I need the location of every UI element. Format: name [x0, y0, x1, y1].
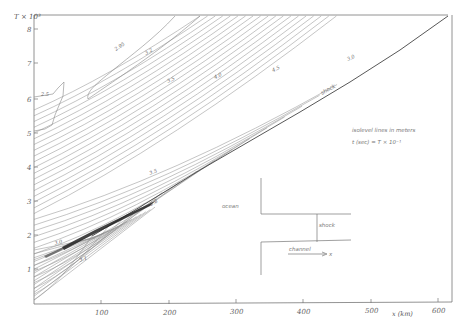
svg-text:3.0: 3.0: [54, 238, 64, 246]
x-tick-label: 400: [296, 308, 311, 316]
contour-line: [34, 16, 306, 191]
y-tick-label: 3: [27, 198, 32, 206]
x-tick-label: 200: [162, 309, 177, 317]
x-tick-label: 300: [230, 308, 244, 316]
y-tick-label: 5: [27, 130, 32, 138]
y-tick-label: 6: [27, 96, 32, 104]
contour-line: [34, 16, 253, 150]
contour-line: [34, 16, 238, 139]
upper-contours: [34, 16, 200, 131]
contour-line: [34, 16, 208, 116]
inset-ocean-label: ocean: [222, 203, 239, 209]
contour-line: [34, 149, 232, 254]
y-axis-ticks: [34, 29, 38, 269]
contour-chart: 8 7 6 5 4 3 2 1 T × 10³ 100 200 300 400 …: [0, 0, 474, 334]
contour-line: [34, 128, 267, 243]
x-tick-label: 100: [95, 309, 109, 317]
svg-text:2.95: 2.95: [112, 41, 125, 53]
shock-line-label: shock: [320, 82, 337, 96]
y-tick-label: 7: [27, 60, 32, 68]
note-time-scale: t (sec) = T × 10⁻¹: [352, 139, 401, 145]
contour-line: [34, 16, 321, 202]
contour-line: [34, 214, 141, 288]
inset-shock-label: shock: [319, 222, 336, 228]
contour-line: [34, 217, 137, 285]
contour-line: [34, 16, 283, 173]
contour-line: [34, 16, 261, 156]
axes: [34, 15, 452, 304]
y-tick-label: 8: [27, 26, 32, 34]
contour-line: [34, 16, 329, 208]
y-tick-label: 2: [26, 232, 32, 240]
contour-line: [34, 139, 250, 249]
contour-labels: 2.5 2.95 3.2 3.5 4.0 4.5 3.0 3.5 2.8 3.0…: [40, 41, 356, 263]
y-tick-label: 1: [27, 266, 31, 274]
svg-text:4.5: 4.5: [270, 64, 281, 73]
inset-channel-label: channel: [289, 246, 311, 252]
contour-line: [34, 229, 114, 266]
contour-line: [34, 16, 246, 145]
note-isolevel: isolevel lines in meters: [352, 127, 415, 133]
inset-x-label: x: [328, 251, 333, 257]
x-tick-label: 500: [365, 307, 379, 315]
contour-line: [34, 16, 200, 110]
shock-front-tail: [44, 244, 70, 258]
svg-text:3.1: 3.1: [78, 255, 88, 263]
contour-line: [34, 16, 314, 196]
svg-text:2.5: 2.5: [40, 91, 49, 97]
svg-text:3.5: 3.5: [166, 75, 176, 84]
x-axis-label: x (km): [392, 310, 413, 318]
y-axis-label: T × 10³: [14, 13, 41, 21]
x-tick-label: 600: [432, 307, 446, 315]
contour-line: [34, 16, 268, 162]
svg-text:4.0: 4.0: [212, 71, 223, 81]
y-axis-tick-labels: 8 7 6 5 4 3 2 1: [26, 26, 32, 274]
inset-diagram: [261, 178, 351, 275]
contour-line: [34, 95, 320, 225]
contour-line: [34, 16, 299, 185]
y-tick-label: 4: [26, 164, 31, 172]
svg-text:3.0: 3.0: [346, 53, 356, 62]
